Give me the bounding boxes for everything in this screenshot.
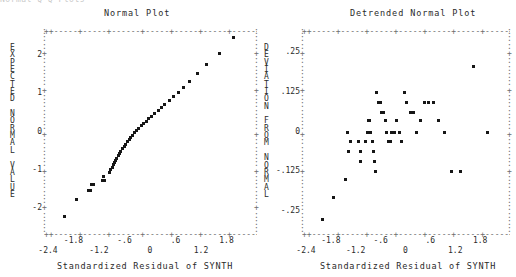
right-x-tick-upper-2: .6 [412, 237, 448, 245]
data-point [332, 196, 335, 199]
right-y-tick-0: .25 [260, 48, 300, 56]
right-x-tick-upper-3: 1.8 [462, 237, 498, 245]
data-point [395, 119, 398, 122]
right-x-axis-caption: Standardized Residual of SYNTH [300, 261, 516, 271]
data-point [157, 109, 160, 112]
data-point [92, 183, 95, 186]
data-point [119, 150, 122, 153]
data-point [188, 80, 191, 83]
data-point [102, 175, 105, 178]
data-point [349, 140, 352, 143]
data-point [412, 111, 415, 114]
data-point [459, 170, 462, 173]
data-point [344, 178, 347, 181]
left-plot-title: Normal Plot [104, 8, 170, 18]
data-point [153, 112, 156, 115]
data-point [103, 179, 106, 182]
right-x-tick-lower-1: -1.2 [338, 247, 374, 255]
left-x-axis-caption: Standardized Residual of SYNTH [0, 261, 290, 271]
data-point [124, 143, 127, 146]
data-point [419, 119, 422, 122]
data-point [423, 101, 426, 104]
left-y-tick-3: -1 [2, 166, 42, 174]
data-point [382, 111, 385, 114]
data-point [115, 157, 118, 160]
data-point [372, 150, 375, 153]
data-point [347, 150, 350, 153]
left-x-tick-lower-2: 0 [132, 247, 168, 255]
data-point [196, 72, 199, 75]
data-point [385, 131, 388, 134]
left-y-tick-0: 2 [2, 51, 42, 59]
right-y-tick-1: .125 [260, 88, 300, 96]
data-point [172, 95, 175, 98]
left-x-tick-upper-2: .6 [158, 237, 194, 245]
left-frame-right: : : : + : : : : + : : : : : + : : : : + … [253, 28, 260, 236]
right-y-tick-4: -.25 [260, 207, 300, 215]
data-point [177, 91, 180, 94]
data-point [427, 101, 430, 104]
data-point [359, 160, 362, 163]
data-point [393, 131, 396, 134]
data-point [131, 134, 134, 137]
data-point [63, 215, 66, 218]
data-point [364, 140, 367, 143]
left-frame-left: : : : + : : : : + : : : : : + : : : : + … [41, 28, 48, 236]
data-point [371, 140, 374, 143]
right-plot-title: Detrended Normal Plot [350, 8, 476, 18]
left-x-tick-upper-3: 1.8 [209, 237, 245, 245]
left-x-tick-lower-0: -2.4 [30, 247, 66, 255]
left-y-tick-1: 1 [2, 89, 42, 97]
left-x-tick-upper-0: -1.8 [56, 237, 92, 245]
data-point [486, 131, 489, 134]
right-x-tick-upper-1: -.6 [363, 237, 399, 245]
data-point [405, 101, 408, 104]
data-point [398, 131, 401, 134]
data-point [346, 131, 349, 134]
right-x-tick-lower-2: 0 [388, 247, 424, 255]
data-point [384, 119, 387, 122]
data-point [415, 131, 418, 134]
left-x-tick-upper-1: -.6 [107, 237, 143, 245]
right-x-tick-upper-0: -1.8 [313, 237, 349, 245]
data-point [400, 140, 403, 143]
data-point [389, 140, 392, 143]
right-y-tick-2: 0 [260, 128, 300, 136]
data-point [403, 91, 406, 94]
data-point [373, 160, 376, 163]
data-point [111, 166, 114, 169]
clipped-header-text: Normal Q-Q Plots [0, 0, 516, 3]
data-point [160, 106, 163, 109]
right-x-tick-lower-0: -2.4 [288, 247, 324, 255]
data-point [89, 189, 92, 192]
data-point [432, 101, 435, 104]
data-point [150, 115, 153, 118]
plot-page: Normal Q-Q Plots Normal Plot E X P E C T… [0, 0, 516, 277]
data-point [75, 198, 78, 201]
left-y-axis-title: E X P E C T E D N O R M A L V A L U E [8, 44, 17, 198]
right-y-tick-3: -.125 [260, 167, 300, 175]
data-point [450, 170, 453, 173]
data-point [374, 170, 377, 173]
data-point [232, 36, 235, 39]
data-point [205, 63, 208, 66]
right-plot-area [306, 32, 505, 231]
data-point [437, 119, 440, 122]
data-point [359, 150, 362, 153]
data-point [137, 127, 140, 130]
right-x-tick-lower-3: 1.2 [437, 247, 473, 255]
data-point [163, 103, 166, 106]
left-y-tick-2: 0 [2, 128, 42, 136]
data-point [357, 140, 360, 143]
data-point [145, 120, 148, 123]
left-x-tick-lower-1: -1.2 [81, 247, 117, 255]
data-point [108, 171, 111, 174]
left-x-tick-lower-3: 1.2 [183, 247, 219, 255]
data-point [472, 65, 475, 68]
data-point [379, 101, 382, 104]
data-point [369, 131, 372, 134]
right-frame-left: : : : + : : : : + : : : : : + : : : : + … [299, 28, 306, 236]
data-point [218, 52, 221, 55]
data-point [443, 131, 446, 134]
data-point [182, 86, 185, 89]
